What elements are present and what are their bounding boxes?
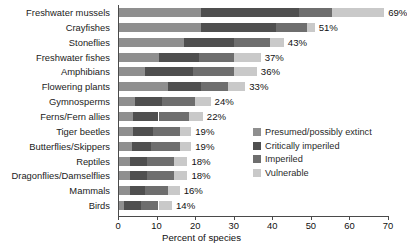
legend-swatch-icon bbox=[253, 142, 261, 150]
bar-value-label: 69% bbox=[388, 7, 407, 18]
legend-label: Presumed/possibly extinct bbox=[265, 126, 372, 138]
bar-segment bbox=[130, 171, 147, 180]
bar-segment bbox=[118, 112, 133, 121]
legend-label: Vulnerable bbox=[265, 167, 309, 179]
bar-row: 36% bbox=[118, 67, 388, 76]
bar-segment bbox=[118, 53, 159, 62]
bar-row: 33% bbox=[118, 82, 388, 91]
category-label: Flowering plants bbox=[42, 81, 110, 92]
bar-segment bbox=[159, 201, 173, 210]
x-axis-tick-label: 40 bbox=[267, 220, 277, 231]
category-label: Gymnosperms bbox=[49, 96, 110, 107]
legend-swatch-icon bbox=[253, 169, 261, 177]
bar-segment bbox=[118, 186, 130, 195]
bar-segment bbox=[145, 186, 168, 195]
x-axis-tick-label: 70 bbox=[383, 220, 393, 231]
bar-segment bbox=[153, 127, 180, 136]
bar-segment bbox=[133, 127, 152, 136]
bar-segment bbox=[228, 82, 245, 91]
x-axis-tick-label: 20 bbox=[190, 220, 200, 231]
bar-value-label: 22% bbox=[207, 111, 226, 122]
bar-segment bbox=[118, 97, 135, 106]
bar-value-label: 16% bbox=[184, 185, 203, 196]
category-label: Stoneflies bbox=[69, 37, 110, 48]
category-label: Birds bbox=[89, 200, 110, 211]
bar-segment bbox=[184, 38, 234, 47]
bar-value-label: 36% bbox=[261, 66, 280, 77]
bar-segment bbox=[307, 23, 315, 32]
bar-segment bbox=[201, 8, 299, 17]
bar-segment bbox=[130, 157, 147, 166]
bar-segment bbox=[159, 112, 190, 121]
bar-segment bbox=[270, 38, 284, 47]
bar-segment bbox=[201, 23, 276, 32]
bar-segment bbox=[189, 112, 203, 121]
x-axis-tick-label: 0 bbox=[115, 220, 120, 231]
legend-label: Critically imperiled bbox=[265, 140, 340, 152]
category-label: Tiger beetles bbox=[56, 126, 110, 137]
bar-segment bbox=[118, 38, 184, 47]
category-label: Butterflies/Skippers bbox=[29, 141, 110, 152]
bar-row: 14% bbox=[118, 201, 388, 210]
bar-segment bbox=[118, 67, 145, 76]
bar-segment bbox=[145, 67, 193, 76]
legend-swatch-icon bbox=[253, 155, 261, 163]
x-axis-tick-label: 30 bbox=[228, 220, 238, 231]
bar-value-label: 43% bbox=[288, 37, 307, 48]
bar-segment bbox=[180, 142, 192, 151]
bar-segment bbox=[132, 142, 151, 151]
bar-segment bbox=[332, 8, 384, 17]
category-label: Reptiles bbox=[76, 156, 110, 167]
bar-segment bbox=[193, 67, 234, 76]
x-axis-tick-label: 50 bbox=[306, 220, 316, 231]
legend-label: Imperiled bbox=[265, 153, 303, 165]
bar-value-label: 37% bbox=[265, 52, 284, 63]
bar-segment bbox=[180, 127, 192, 136]
category-label: Dragonflies/Damselflies bbox=[12, 170, 110, 181]
bar-segment bbox=[174, 157, 188, 166]
x-axis-title: Percent of species bbox=[0, 232, 403, 243]
bar-segment bbox=[234, 38, 271, 47]
bar-segment bbox=[141, 201, 158, 210]
bar-segment bbox=[124, 201, 141, 210]
bar-row: 37% bbox=[118, 53, 388, 62]
legend-swatch-icon bbox=[253, 128, 261, 136]
bar-segment bbox=[168, 186, 180, 195]
bar-value-label: 19% bbox=[195, 126, 214, 137]
bar-segment bbox=[118, 127, 133, 136]
bar-segment bbox=[168, 82, 201, 91]
x-axis-tick-label: 60 bbox=[344, 220, 354, 231]
bar-value-label: 24% bbox=[215, 96, 234, 107]
bar-segment bbox=[118, 142, 132, 151]
bar-segment bbox=[199, 53, 234, 62]
bar-segment bbox=[147, 171, 174, 180]
bar-segment bbox=[276, 23, 307, 32]
bar-row: 24% bbox=[118, 97, 388, 106]
bar-segment bbox=[299, 8, 332, 17]
category-label: Mammals bbox=[69, 185, 110, 196]
bar-segment bbox=[201, 82, 228, 91]
bar-segment bbox=[159, 53, 200, 62]
bar-segment bbox=[118, 82, 168, 91]
bar-value-label: 14% bbox=[176, 200, 195, 211]
bar-row: 69% bbox=[118, 8, 388, 17]
bar-row: 43% bbox=[118, 38, 388, 47]
bar-segment bbox=[133, 112, 158, 121]
bar-value-label: 18% bbox=[191, 156, 210, 167]
bar-segment bbox=[118, 171, 130, 180]
bar-segment bbox=[147, 157, 174, 166]
bar-row: 16% bbox=[118, 186, 388, 195]
category-label: Crayfishes bbox=[66, 22, 110, 33]
category-label: Amphibians bbox=[61, 66, 110, 77]
plot-area: 69%51%43%37%36%33%24%22%19%19%18%18%16%1… bbox=[118, 5, 388, 213]
bar-value-label: 18% bbox=[191, 170, 210, 181]
bar-value-label: 19% bbox=[195, 141, 214, 152]
bar-segment bbox=[234, 53, 261, 62]
x-axis-line bbox=[118, 216, 388, 217]
bar-segment bbox=[234, 67, 257, 76]
bar-segment bbox=[118, 8, 201, 17]
bar-segment bbox=[195, 97, 210, 106]
bar-value-label: 51% bbox=[319, 22, 338, 33]
category-label: Ferns/Fern allies bbox=[40, 111, 110, 122]
